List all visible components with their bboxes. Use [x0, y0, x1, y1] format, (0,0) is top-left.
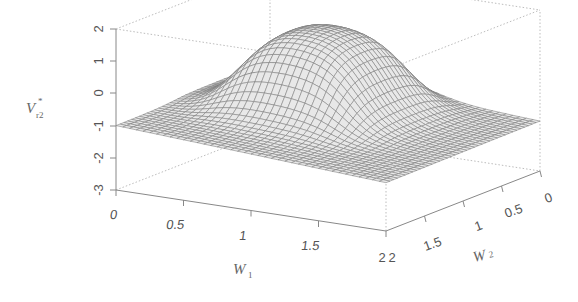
w2-axis-subscript: 2	[488, 249, 494, 260]
w2-axis-title: W	[471, 246, 488, 265]
w1-tick-label: 1	[238, 228, 247, 243]
w2-tick-label: 2	[388, 250, 395, 265]
z-axis-superscript: *	[38, 96, 43, 106]
w2-tick-label: 0	[542, 189, 554, 206]
w1-axis: 0 0.5 1 1.5 W 1	[109, 190, 386, 280]
z-tick-label: 1	[91, 57, 106, 64]
z-tick-label: 0	[91, 89, 106, 96]
w1-axis-subscript: 1	[248, 270, 253, 280]
w2-axis: 2 2 1.5 1 0.5 0 W 2	[378, 171, 554, 265]
w1-tick-label: 0.5	[165, 217, 185, 232]
w1-tick-label: 1.5	[300, 238, 320, 253]
z-tick-label: -3	[91, 184, 106, 196]
surface-plot: 2 1 0 -1 -2 -3 V r2 * 0 0.5 1 1.5 W 1 2 …	[0, 0, 578, 302]
w2-tick-label: 1	[472, 217, 484, 234]
w2-tick-label: 0.5	[502, 201, 524, 221]
w1-tick-label: 0	[109, 207, 118, 222]
z-tick-label: -2	[91, 152, 106, 164]
z-tick-label: -1	[91, 120, 106, 132]
surface-mesh	[116, 25, 540, 183]
z-axis: 2 1 0 -1 -2 -3 V r2 *	[26, 25, 116, 195]
w2-tick-label: 1.5	[421, 234, 443, 254]
w1-axis-title: W	[233, 261, 247, 277]
w2-tick-label: 2	[378, 250, 385, 265]
z-axis-subscript: r2	[36, 110, 44, 120]
z-tick-label: 2	[91, 25, 106, 32]
